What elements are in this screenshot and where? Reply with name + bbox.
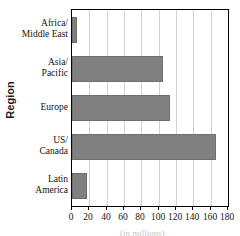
category-label: Europe <box>8 102 68 113</box>
x-axis-tick <box>175 206 176 210</box>
category-label-line: Pacific <box>8 68 68 79</box>
category-label-line: US/ <box>8 135 68 146</box>
category-label-line: Canada <box>8 146 68 157</box>
x-axis-tick <box>71 206 72 210</box>
x-axis-tick-label: 20 <box>83 211 93 223</box>
x-axis-tick <box>106 206 107 210</box>
x-axis-tick-label: 120 <box>168 211 182 223</box>
category-label-line: Asia/ <box>8 57 68 68</box>
category-label: LatinAmerica <box>8 174 68 196</box>
x-axis-tick-label: 160 <box>203 211 217 223</box>
x-axis-tick <box>210 206 211 210</box>
x-axis-tick-label: 80 <box>135 211 145 223</box>
x-axis-tick <box>88 206 89 210</box>
x-axis-tick <box>123 206 124 210</box>
bar <box>72 95 170 121</box>
x-axis-tick-labels: 020406080100120140160180 <box>0 211 240 225</box>
x-axis-tick <box>192 206 193 210</box>
bar-chart: Region Africa/Middle EastAsia/PacificEur… <box>0 0 240 236</box>
bar <box>72 134 216 160</box>
category-label: Africa/Middle East <box>8 18 68 40</box>
category-axis-labels: Africa/Middle EastAsia/PacificEuropeUS/C… <box>8 9 68 205</box>
x-axis-tick-label: 140 <box>185 211 199 223</box>
bars-layer <box>72 10 228 206</box>
x-axis-caption: (in millions) <box>120 228 240 236</box>
category-label-line: Europe <box>8 102 68 113</box>
x-axis-tick-label: 40 <box>101 211 111 223</box>
bar <box>72 17 77 43</box>
x-axis-tick-label: 180 <box>220 211 234 223</box>
bar <box>72 173 87 199</box>
category-label-line: America <box>8 185 68 196</box>
bar <box>72 56 163 82</box>
category-label-line: Africa/ <box>8 18 68 29</box>
plot-area <box>71 9 229 207</box>
x-axis-tick-label: 100 <box>151 211 165 223</box>
category-label: US/Canada <box>8 135 68 157</box>
x-axis-tick-label: 60 <box>118 211 128 223</box>
category-label-line: Latin <box>8 174 68 185</box>
x-axis-tick-label: 0 <box>69 211 74 223</box>
x-axis-tick <box>158 206 159 210</box>
category-label-line: Middle East <box>8 29 68 40</box>
category-label: Asia/Pacific <box>8 57 68 79</box>
x-axis-tick <box>140 206 141 210</box>
x-axis-tick <box>227 206 228 210</box>
